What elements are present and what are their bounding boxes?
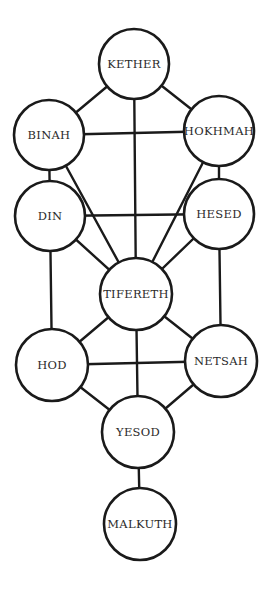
node-label-hokhmah: HOKHMAH xyxy=(184,124,254,138)
node-hod: HOD xyxy=(16,329,88,401)
node-din: DIN xyxy=(15,181,85,251)
node-label-netsah: NETSAH xyxy=(194,354,248,368)
node-label-hod: HOD xyxy=(37,358,67,372)
node-label-tifereth: TIFERETH xyxy=(103,287,169,301)
node-binah: BINAH xyxy=(14,100,84,170)
node-hokhmah: HOKHMAH xyxy=(184,96,254,166)
node-netsah: NETSAH xyxy=(185,325,257,397)
tree-of-life-diagram: KETHERBINAHHOKHMAHDINHESEDTIFERETHHODNET… xyxy=(0,0,272,589)
node-label-yesod: YESOD xyxy=(115,425,160,439)
node-tifereth: TIFERETH xyxy=(100,258,172,330)
node-label-din: DIN xyxy=(38,209,63,223)
node-label-kether: KETHER xyxy=(107,57,161,71)
node-kether: KETHER xyxy=(99,29,169,99)
node-yesod: YESOD xyxy=(102,396,174,468)
node-malkuth: MALKUTH xyxy=(104,488,176,560)
node-label-malkuth: MALKUTH xyxy=(107,517,172,531)
node-label-binah: BINAH xyxy=(28,128,71,142)
node-hesed: HESED xyxy=(184,179,254,249)
node-label-hesed: HESED xyxy=(196,207,241,221)
